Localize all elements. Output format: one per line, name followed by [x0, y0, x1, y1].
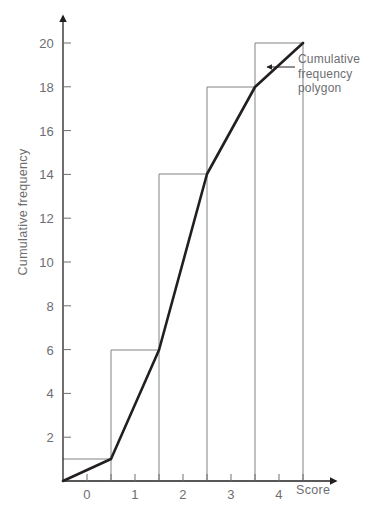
x-axis-ticks: [63, 474, 303, 481]
y-tick-label-4: 4: [12, 386, 54, 401]
y-tick-label-6: 6: [12, 342, 54, 357]
annotation-line-2: frequency: [298, 67, 368, 82]
bar-outline-4: [255, 43, 303, 481]
y-axis-ticks: [63, 43, 71, 437]
bar-outline-1: [111, 350, 159, 481]
y-tick-label-8: 8: [12, 298, 54, 313]
x-tick-label-4: 4: [275, 487, 282, 502]
bar-outline-3: [207, 87, 255, 481]
cumulative-frequency-polygon-line: [63, 43, 303, 481]
y-tick-label-2: 2: [12, 430, 54, 445]
annotation-line-1: Cumulative: [298, 52, 368, 67]
y-tick-label-18: 18: [12, 79, 54, 94]
annotation-line-3: polygon: [298, 81, 368, 96]
y-tick-label-20: 20: [12, 36, 54, 51]
x-tick-label-0: 0: [83, 487, 90, 502]
cumulative-frequency-chart: 2 4 6 8 10 12 14 16 18 20 0 1 2 3 4 Cumu…: [0, 0, 368, 512]
x-axis-title: Score: [296, 483, 330, 497]
y-axis-title: Cumulative frequency: [16, 127, 30, 297]
x-tick-label-3: 3: [227, 487, 234, 502]
x-tick-label-2: 2: [179, 487, 186, 502]
x-tick-label-1: 1: [131, 487, 138, 502]
annotation-cumulative-frequency-polygon: Cumulative frequency polygon: [298, 52, 368, 96]
